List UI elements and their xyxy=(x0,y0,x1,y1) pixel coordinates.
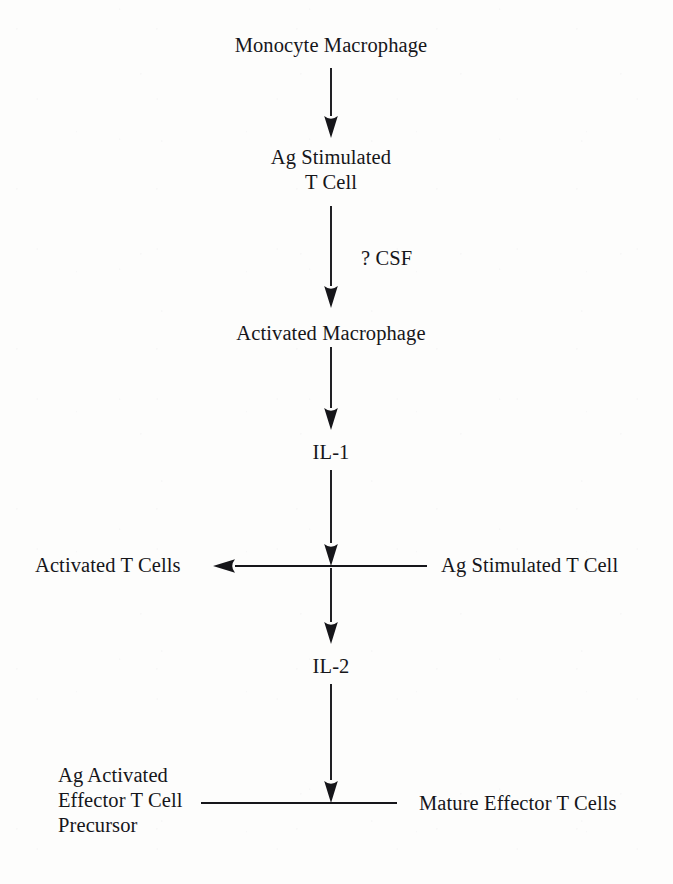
node-ag-stimulated-t-cell-right: Ag Stimulated T Cell xyxy=(441,553,671,578)
node-monocyte-macrophage: Monocyte Macrophage xyxy=(151,33,511,58)
node-mature-effector-t-cells: Mature Effector T Cells xyxy=(419,791,669,816)
arrow-ag-t-cell-to-activated-macrophage xyxy=(324,206,338,308)
arrow-monocyte-to-ag-t-cell xyxy=(324,68,338,138)
arrow-il2-to-effector-line xyxy=(324,684,338,803)
arrow-junction-to-il2 xyxy=(324,568,338,644)
node-activated-t-cells: Activated T Cells xyxy=(35,553,225,578)
edge-label-csf: ? CSF xyxy=(361,246,501,271)
diagram-page: Monocyte Macrophage Ag Stimulated T Cell… xyxy=(0,0,673,884)
node-activated-macrophage: Activated Macrophage xyxy=(151,321,511,346)
node-il1: IL-1 xyxy=(251,440,411,465)
arrow-ag-t-cell-right-to-activated-t-cells xyxy=(213,559,427,573)
node-il2: IL-2 xyxy=(251,654,411,679)
arrow-il1-to-junction xyxy=(324,470,338,566)
node-ag-stimulated-t-cell-top: Ag Stimulated T Cell xyxy=(181,145,481,195)
arrow-activated-macrophage-to-il1 xyxy=(324,347,338,430)
node-ag-activated-effector-t-cell-precursor: Ag Activated Effector T Cell Precursor xyxy=(58,763,258,838)
